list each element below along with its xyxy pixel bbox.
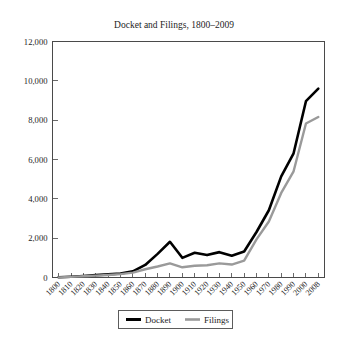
legend-label-filings: Filings: [204, 315, 230, 325]
y-tick-label: 12,000: [24, 37, 48, 47]
series-lines: [59, 89, 319, 278]
series-line-filings: [59, 117, 319, 277]
y-tick-label: 2,000: [28, 233, 47, 243]
legend-label-docket: Docket: [145, 315, 171, 325]
x-tick-label: 2008: [304, 280, 322, 298]
y-tick-label: 8,000: [28, 115, 47, 125]
chart-title: Docket and Filings, 1800–2009: [114, 20, 234, 30]
chart-figure: Docket and Filings, 1800–2009 02,0004,00…: [0, 0, 347, 340]
docket-and-filings-line-chart: Docket and Filings, 1800–2009 02,0004,00…: [0, 0, 347, 340]
y-tick-label: 10,000: [24, 76, 48, 86]
y-tick-label: 4,000: [28, 194, 47, 204]
series-line-docket: [59, 89, 319, 278]
y-tick-label: 6,000: [28, 155, 47, 165]
plot-frame: [53, 42, 325, 278]
chart-legend: DocketFilings: [119, 311, 233, 329]
y-tick-label: 0: [43, 273, 47, 283]
